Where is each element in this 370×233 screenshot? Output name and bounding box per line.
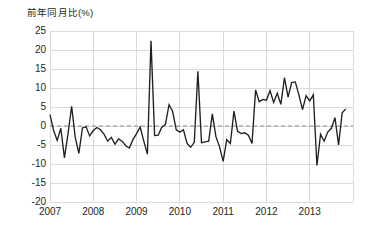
x-tick-label: 2011 [209, 207, 237, 217]
y-tick-label: -10 [32, 159, 46, 169]
x-tick-label: 2013 [296, 207, 324, 217]
x-tick-label: 2007 [36, 207, 64, 217]
y-tick-label: -5 [37, 140, 46, 150]
y-tick-label: -15 [32, 178, 46, 188]
y-tick-label: 5 [40, 102, 46, 112]
y-tick-label: 25 [35, 26, 46, 36]
y-tick-label: 15 [35, 64, 46, 74]
x-tick-label: 2009 [123, 207, 151, 217]
x-tick-label: 2012 [252, 207, 280, 217]
y-axis-title: 前年同月比(%) [27, 7, 93, 19]
y-tick-label: 0 [40, 121, 46, 131]
x-tick-label: 2008 [79, 207, 107, 217]
data-series-line [50, 31, 353, 202]
x-tick-label: 2010 [166, 207, 194, 217]
y-tick-label: 10 [35, 83, 46, 93]
plot-area [50, 31, 353, 202]
chart-container: 前年同月比(%) 2520151050-5-10-15-20 200720082… [0, 0, 370, 233]
y-tick-label: 20 [35, 45, 46, 55]
